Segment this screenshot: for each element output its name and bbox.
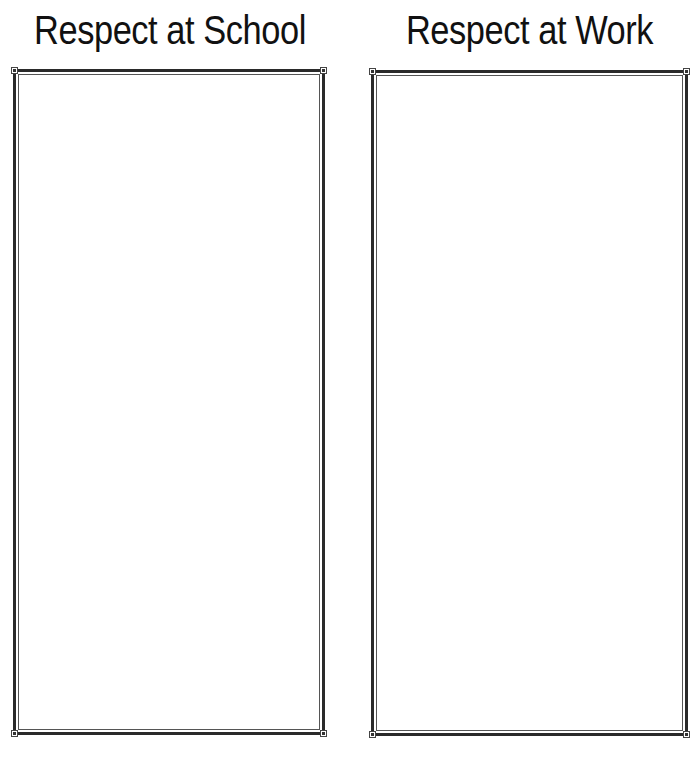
corner-ornament-icon — [320, 67, 327, 74]
heading-respect-at-school: Respect at School — [32, 4, 307, 56]
heading-respect-at-work: Respect at Work — [390, 4, 670, 56]
corner-ornament-icon — [11, 730, 18, 737]
corner-ornament-icon — [369, 68, 376, 75]
corner-ornament-icon — [11, 67, 18, 74]
respect-at-school-writing-box — [13, 69, 325, 735]
corner-ornament-icon — [369, 731, 376, 738]
respect-at-work-writing-box — [371, 70, 688, 736]
corner-ornament-icon — [683, 68, 690, 75]
corner-ornament-icon — [683, 731, 690, 738]
corner-ornament-icon — [320, 730, 327, 737]
